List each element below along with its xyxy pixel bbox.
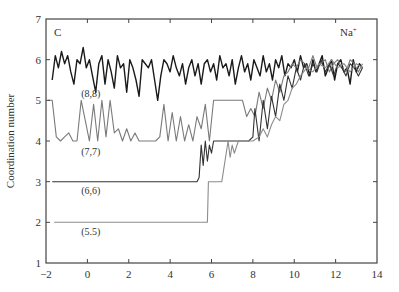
coordination-number-chart: −2024681012141234567 C Na+ Coordination … — [0, 0, 399, 292]
series-line-3 — [54, 60, 362, 223]
y-tick-label: 1 — [36, 257, 42, 269]
series-label-2: (6,6) — [81, 185, 100, 197]
y-tick-label: 2 — [36, 216, 42, 228]
series-label-0: (8,8) — [81, 88, 100, 100]
x-tick-label: 2 — [126, 268, 132, 280]
x-tick-label: 0 — [85, 268, 91, 280]
x-tick-label: 8 — [250, 268, 256, 280]
series-label-1: (7,7) — [81, 146, 100, 158]
series-annotations: (8,8)(7,7)(6,6)(5.5) — [81, 88, 100, 238]
y-tick-label: 3 — [36, 176, 42, 188]
y-tick-label: 5 — [36, 94, 42, 106]
x-tick-label: 6 — [209, 268, 215, 280]
x-tick-label: 10 — [289, 268, 301, 280]
y-tick-label: 4 — [36, 135, 42, 147]
x-tick-label: 4 — [167, 268, 173, 280]
x-tick-label: 14 — [372, 268, 384, 280]
x-tick-label: 12 — [330, 268, 341, 280]
y-tick-label: 7 — [36, 13, 42, 25]
series-label-3: (5.5) — [81, 226, 100, 238]
panel-label: C — [54, 26, 61, 38]
x-tick-label: −2 — [40, 268, 52, 280]
ion-label: Na+ — [340, 26, 357, 38]
series-layer — [48, 48, 362, 223]
y-axis-label: Coordination number — [4, 93, 16, 188]
y-tick-label: 6 — [36, 54, 42, 66]
